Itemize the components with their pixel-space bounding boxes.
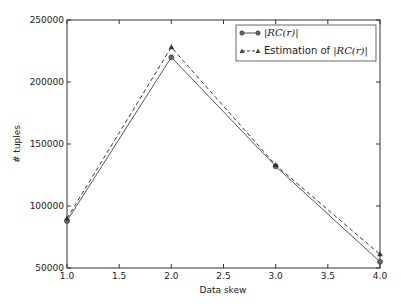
circle-marker-icon <box>240 31 244 35</box>
y-tick-label: 250000 <box>30 15 65 25</box>
x-tick-label: 1.0 <box>60 271 75 281</box>
legend-label-estimation: Estimation of |RC(r)| <box>264 45 368 57</box>
circle-marker-icon <box>378 259 383 264</box>
x-tick-label: 2.0 <box>164 271 179 281</box>
circle-marker-icon <box>256 31 260 35</box>
legend: |RC(r)| Estimation of |RC(r)| <box>236 25 376 61</box>
x-tick-label: 3.0 <box>269 271 284 281</box>
x-tick-label: 4.0 <box>373 271 388 281</box>
y-tick-label: 150000 <box>30 139 65 149</box>
x-tick-label: 3.5 <box>321 271 335 281</box>
x-axis-label: Data skew <box>200 285 247 295</box>
circle-marker-icon <box>169 55 174 60</box>
legend-label-rc: |RC(r)| <box>264 27 299 39</box>
x-tick-label: 1.5 <box>112 271 126 281</box>
x-tick-label: 2.5 <box>216 271 230 281</box>
y-axis-label: # tuples <box>12 125 22 163</box>
y-tick-label: 200000 <box>30 77 65 87</box>
y-tick-label: 100000 <box>30 201 65 211</box>
line-chart: 50000100000150000200000250000 1.01.52.02… <box>0 0 401 307</box>
